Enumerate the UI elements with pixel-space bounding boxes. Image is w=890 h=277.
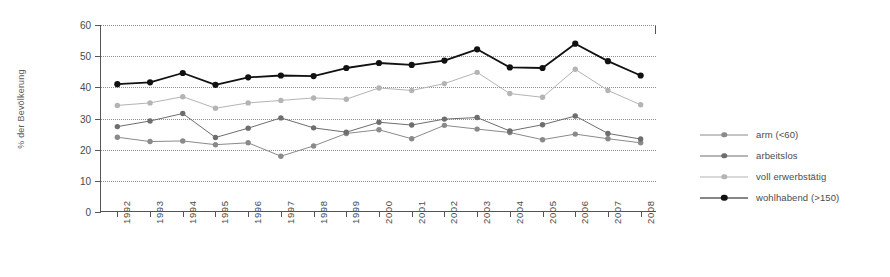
data-point: [605, 131, 610, 136]
data-point: [344, 96, 349, 101]
data-point: [507, 128, 512, 133]
data-point: [147, 139, 152, 144]
data-point: [115, 135, 120, 140]
data-point: [507, 64, 513, 70]
data-point: [344, 130, 349, 135]
legend-label: arbeitslos: [748, 150, 798, 161]
data-point: [573, 113, 578, 118]
y-tick-label-20: 20: [80, 144, 91, 155]
data-point: [605, 136, 610, 141]
data-point: [638, 102, 643, 107]
data-point: [147, 118, 152, 123]
data-point: [278, 154, 283, 159]
data-point: [539, 65, 545, 71]
data-point: [409, 122, 414, 127]
data-point: [573, 131, 578, 136]
line-chart-figure: % der Bevölkerung 0102030405060 19921993…: [0, 0, 890, 277]
data-point: [474, 46, 480, 52]
legend-swatch-icon: [700, 192, 748, 204]
data-point: [409, 62, 415, 68]
series-1: [115, 111, 644, 142]
data-point: [442, 81, 447, 86]
series-2: [115, 67, 644, 111]
data-point: [572, 41, 578, 47]
data-point: [115, 124, 120, 129]
legend-item-3[interactable]: wohlhabend (>150): [700, 187, 885, 208]
legend-marker-icon: [721, 194, 728, 201]
data-point: [605, 88, 610, 93]
data-point: [213, 106, 218, 111]
series-0: [115, 123, 644, 159]
series-3: [114, 41, 643, 88]
data-point: [180, 70, 186, 76]
legend-label: voll erwerbstätig: [748, 171, 826, 182]
data-point: [180, 94, 185, 99]
data-point: [115, 103, 120, 108]
data-point: [180, 138, 185, 143]
data-point: [605, 58, 611, 64]
data-point: [540, 95, 545, 100]
legend: arm (<60)arbeitslosvoll erwerbstätigwohl…: [700, 124, 885, 208]
data-point: [212, 82, 218, 88]
legend-marker-icon: [721, 153, 727, 159]
data-point: [474, 115, 479, 120]
data-point: [245, 74, 251, 80]
legend-swatch-icon: [700, 150, 748, 162]
legend-label: arm (<60): [748, 129, 798, 140]
legend-item-2[interactable]: voll erwerbstätig: [700, 166, 885, 187]
data-point: [376, 60, 382, 66]
data-point: [311, 95, 316, 100]
data-point: [474, 126, 479, 131]
y-tick-label-30: 30: [80, 113, 91, 124]
data-point: [540, 122, 545, 127]
data-point: [442, 123, 447, 128]
data-point: [409, 88, 414, 93]
data-point: [245, 125, 250, 130]
y-tick-0: [95, 212, 101, 213]
legend-label: wohlhabend (>150): [748, 192, 839, 203]
data-point: [409, 136, 414, 141]
data-point: [638, 72, 644, 78]
y-axis-title: % der Bevölkerung: [16, 44, 26, 174]
y-tick-label-0: 0: [85, 207, 91, 218]
data-point: [343, 65, 349, 71]
data-point: [540, 137, 545, 142]
legend-swatch-icon: [700, 129, 748, 141]
y-tick-label-60: 60: [80, 20, 91, 31]
data-point: [114, 81, 120, 87]
data-point: [311, 125, 316, 130]
data-point: [474, 70, 479, 75]
series-line-1: [117, 114, 640, 140]
data-point: [147, 100, 152, 105]
data-point: [278, 72, 284, 78]
legend-item-0[interactable]: arm (<60): [700, 124, 885, 145]
data-point: [507, 91, 512, 96]
plot-area: 0102030405060 19921993199419951996199719…: [100, 25, 656, 212]
series-layer: [101, 25, 657, 212]
data-point: [147, 79, 153, 85]
data-point: [441, 57, 447, 63]
legend-marker-icon: [721, 132, 727, 138]
data-point: [638, 136, 643, 141]
legend-item-1[interactable]: arbeitslos: [700, 145, 885, 166]
data-point: [245, 140, 250, 145]
data-point: [213, 142, 218, 147]
data-point: [376, 120, 381, 125]
data-point: [573, 67, 578, 72]
y-tick-label-40: 40: [80, 82, 91, 93]
y-tick-label-50: 50: [80, 51, 91, 62]
data-point: [442, 116, 447, 121]
y-tick-label-10: 10: [80, 175, 91, 186]
data-point: [180, 111, 185, 116]
data-point: [278, 98, 283, 103]
data-point: [278, 115, 283, 120]
legend-marker-icon: [721, 174, 727, 180]
legend-swatch-icon: [700, 171, 748, 183]
data-point: [311, 143, 316, 148]
data-point: [245, 100, 250, 105]
data-point: [376, 127, 381, 132]
data-point: [213, 135, 218, 140]
data-point: [376, 85, 381, 90]
data-point: [310, 73, 316, 79]
